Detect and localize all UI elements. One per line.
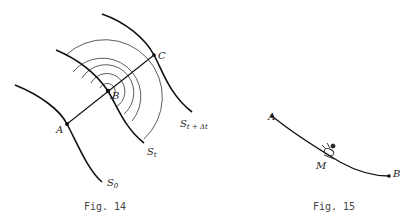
label-a: A (55, 124, 63, 135)
sliding-figure-icon (322, 143, 335, 159)
label-st: St (147, 146, 157, 159)
point-b (106, 89, 110, 93)
label-c: C (158, 50, 166, 61)
label-b: B (392, 168, 400, 179)
label-s0: S0 (107, 177, 119, 190)
point-c (152, 53, 156, 57)
label-m: M (315, 160, 327, 171)
point-b (387, 174, 391, 178)
figure-15: A B M Fig. 15 (267, 111, 400, 212)
label-a: A (267, 111, 275, 122)
caption-fig14: Fig. 14 (84, 201, 126, 212)
diagram-canvas: A B C S0 St St + Δt Fig. 14 A B M Fig. 1… (0, 0, 410, 221)
label-b: B (111, 90, 119, 101)
caption-fig15: Fig. 15 (313, 201, 355, 212)
figure-14: A B C S0 St St + Δt Fig. 14 (15, 14, 208, 212)
point-a (65, 122, 69, 126)
label-st-dt: St + Δt (180, 118, 208, 131)
path-a-to-b (272, 116, 389, 176)
